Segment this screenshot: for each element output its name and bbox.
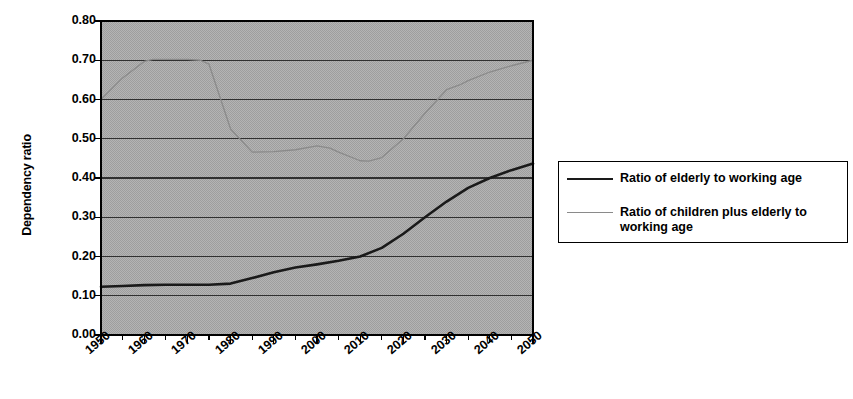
legend-entry-elderly: Ratio of elderly to working age bbox=[567, 171, 802, 186]
y-axis-ticks bbox=[95, 21, 101, 335]
light-line-swatch bbox=[567, 212, 613, 213]
dependency-ratio-chart: Dependency ratio 0.800.700.600.500.400.3… bbox=[0, 0, 853, 399]
legend-label-elderly: Ratio of elderly to working age bbox=[620, 171, 802, 186]
legend-label-children-plus-elderly: Ratio of children plus elderly to workin… bbox=[620, 205, 842, 236]
dark-line-swatch bbox=[567, 178, 613, 180]
chart-legend: Ratio of elderly to working age Ratio of… bbox=[558, 161, 848, 243]
legend-entry-children-plus-elderly: Ratio of children plus elderly to workin… bbox=[567, 205, 842, 236]
